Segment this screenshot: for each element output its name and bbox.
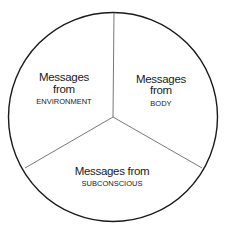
sector-subconscious-line1: Messages from — [75, 165, 150, 177]
sector-environment-line2: from — [53, 83, 75, 95]
sector-subconscious: Messages from SUBCONSCIOUS — [75, 165, 150, 188]
sector-environment-line1: Messages — [39, 71, 90, 83]
three-sector-circle-diagram: Messages from ENVIRONMENT Messages from … — [0, 0, 226, 229]
sector-body-line2: from — [150, 84, 172, 96]
sector-subconscious-line2: SUBCONSCIOUS — [82, 179, 143, 188]
sector-body-line3: BODY — [150, 99, 171, 108]
sector-environment-line3: ENVIRONMENT — [36, 97, 92, 106]
